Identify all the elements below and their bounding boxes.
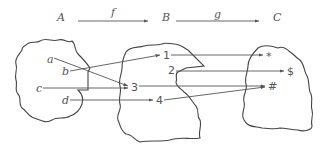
function-composition-diagram: A f B g C a b c d 1 2 3 4 * $ # xyxy=(0,0,335,148)
set-label-c: C xyxy=(273,11,282,24)
set-label-b: B xyxy=(161,11,170,24)
element-2: 2 xyxy=(168,64,175,77)
function-label-g: g xyxy=(214,8,221,21)
element-hash: # xyxy=(268,80,277,93)
function-label-f: f xyxy=(110,6,117,19)
arrow-4-to-hash xyxy=(164,87,265,100)
element-a: a xyxy=(47,53,54,66)
arrow-b-to-1 xyxy=(70,55,160,71)
set-a-region xyxy=(15,39,90,121)
element-1: 1 xyxy=(163,49,170,62)
element-4: 4 xyxy=(156,94,163,107)
element-d: d xyxy=(62,94,69,107)
element-3: 3 xyxy=(131,81,138,94)
element-c: c xyxy=(36,82,42,95)
element-dollar: $ xyxy=(287,65,294,78)
element-star: * xyxy=(266,50,272,63)
set-label-a: A xyxy=(56,11,65,24)
element-b: b xyxy=(62,65,69,78)
